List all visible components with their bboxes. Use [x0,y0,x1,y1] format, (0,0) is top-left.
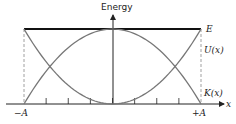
energy-axis-label: Energy [101,2,133,12]
x-axis-ticks [46,98,179,104]
kinetic-energy-label: K(x) [203,88,223,98]
energy-diagram: Energy x E U(x) K(x) −A +A [0,0,236,124]
left-bound-label: −A [14,108,29,118]
total-energy-label: E [205,24,213,34]
right-bound-label: +A [192,108,207,118]
potential-energy-label: U(x) [204,45,224,55]
x-axis-label: x [226,99,231,109]
